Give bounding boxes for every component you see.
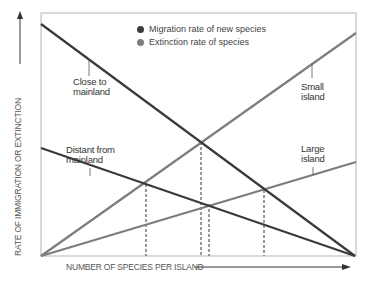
label-large-line2: island <box>301 154 325 164</box>
extinction-line-large-island <box>41 162 356 256</box>
label-large-island: Large island <box>301 144 325 164</box>
legend-item-migration: Migration rate of new species <box>137 23 266 36</box>
label-close-to-mainland: Close to mainland <box>73 77 110 97</box>
label-small-island: Small island <box>301 82 325 102</box>
x-axis-arrowhead-icon <box>342 264 351 270</box>
label-close-line2: mainland <box>73 87 110 97</box>
migration-line-close-to-mainland <box>41 24 355 256</box>
plot-frame <box>41 13 356 256</box>
dark-dot-icon <box>137 26 144 33</box>
legend-label-extinction: Extinction rate of species <box>149 36 249 49</box>
x-axis-label: NUMBER OF SPECIES PER ISLAND <box>66 262 204 272</box>
label-distant-line2: mainland <box>66 155 115 165</box>
equilibrium-dashed-lines <box>146 142 264 256</box>
legend-item-extinction: Extinction rate of species <box>137 36 266 49</box>
legend: Migration rate of new species Extinction… <box>137 23 266 49</box>
legend-label-migration: Migration rate of new species <box>149 23 266 36</box>
y-axis-label: RATE OF IMMIGRATION OR EXTINCTION <box>13 98 23 256</box>
label-distant-from-mainland: Distant from mainland <box>66 145 115 165</box>
label-small-line2: island <box>301 92 325 102</box>
y-axis-arrowhead-icon <box>17 11 23 19</box>
gray-dot-icon <box>137 39 144 46</box>
